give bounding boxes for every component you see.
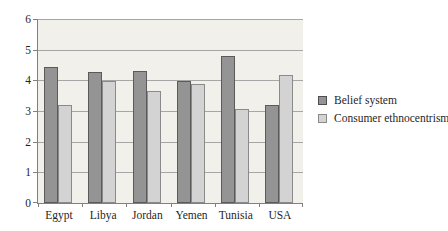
bar-libya-belief-system (88, 72, 102, 203)
y-tick-mark (33, 142, 37, 143)
y-tick-mark (33, 202, 37, 203)
x-tick-mark (302, 204, 303, 207)
belief-system-swatch-icon (318, 96, 327, 105)
x-axis-label-tunisia: Tunisia (214, 208, 258, 222)
x-tick-mark (126, 204, 127, 207)
bar-egypt-consumer-ethnocentrism (58, 105, 72, 203)
y-tick-mark (33, 80, 37, 81)
x-tick-mark (38, 204, 39, 207)
y-tick-mark (33, 50, 37, 51)
bar-yemen-belief-system (177, 81, 191, 203)
x-axis-label-libya: Libya (81, 208, 125, 222)
bar-tunisia-consumer-ethnocentrism (235, 109, 249, 203)
legend-item-belief-system: Belief system (318, 94, 448, 106)
y-axis-label-5: 5 (0, 43, 31, 57)
legend: Belief system Consumer ethnocentrism (318, 94, 448, 130)
y-axis-label-0: 0 (0, 196, 31, 210)
x-axis-label-yemen: Yemen (170, 208, 214, 222)
bar-yemen-consumer-ethnocentrism (191, 84, 205, 203)
gridline-y1 (38, 172, 303, 173)
consumer-ethnocentrism-swatch-icon (318, 114, 327, 123)
bar-chart-figure: 6543210 EgyptLibyaJordanYemenTunisiaUSA … (0, 0, 448, 231)
plot-area (37, 19, 303, 204)
y-axis-label-1: 1 (0, 165, 31, 179)
bar-egypt-belief-system (44, 67, 58, 203)
y-tick-mark (33, 19, 37, 20)
gridline-y6 (38, 19, 303, 20)
legend-item-consumer-ethnocentrism: Consumer ethnocentrism (318, 112, 448, 124)
x-tick-mark (171, 204, 172, 207)
y-axis-label-6: 6 (0, 12, 31, 26)
gridline-y5 (38, 50, 303, 51)
bar-libya-consumer-ethnocentrism (102, 81, 116, 203)
bar-jordan-consumer-ethnocentrism (147, 91, 161, 203)
bar-usa-consumer-ethnocentrism (279, 75, 293, 203)
bar-usa-belief-system (265, 105, 279, 203)
y-tick-mark (33, 172, 37, 173)
gridline-y4 (38, 80, 303, 81)
x-axis-label-jordan: Jordan (125, 208, 169, 222)
x-tick-mark (82, 204, 83, 207)
bar-tunisia-belief-system (221, 56, 235, 203)
y-axis-label-3: 3 (0, 104, 31, 118)
gridline-y3 (38, 111, 303, 112)
x-tick-mark (215, 204, 216, 207)
y-axis-label-4: 4 (0, 73, 31, 87)
x-axis-label-usa: USA (258, 208, 302, 222)
legend-label: Consumer ethnocentrism (334, 112, 448, 124)
y-tick-mark (33, 111, 37, 112)
gridline-y2 (38, 142, 303, 143)
y-axis-label-2: 2 (0, 135, 31, 149)
legend-label: Belief system (334, 94, 397, 106)
bar-jordan-belief-system (133, 71, 147, 203)
x-axis-label-egypt: Egypt (37, 208, 81, 222)
x-tick-mark (259, 204, 260, 207)
